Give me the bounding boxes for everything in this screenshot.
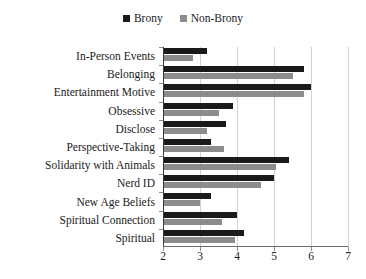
bar-non-brony <box>163 219 222 225</box>
bar-group <box>163 83 348 101</box>
category-label: Belonging <box>107 68 155 80</box>
bar-brony <box>163 66 304 72</box>
category-label: Entertainment Motive <box>54 86 155 98</box>
bar-brony <box>163 175 274 181</box>
legend-swatch-non-brony-icon <box>180 15 187 22</box>
bar-chart: Brony Non-Brony In-Person EventsBelongin… <box>0 0 366 279</box>
legend-entry-non-brony: Non-Brony <box>180 13 243 25</box>
bar-non-brony <box>163 146 224 152</box>
bar-group <box>163 138 348 156</box>
category-label: Spiritual Connection <box>59 214 155 226</box>
category-label: Nerd ID <box>117 177 155 189</box>
x-tick-label-3: 3 <box>197 250 203 262</box>
bar-non-brony <box>163 91 304 97</box>
bar-rows <box>163 47 348 247</box>
bar-brony <box>163 212 237 218</box>
bar-brony <box>163 230 244 236</box>
legend-entry-brony: Brony <box>123 13 163 25</box>
bar-non-brony <box>163 182 261 188</box>
gridline-7 <box>348 47 349 247</box>
category-label: Disclose <box>115 123 155 135</box>
bar-non-brony <box>163 164 276 170</box>
bar-brony <box>163 103 233 109</box>
bar-group <box>163 229 348 247</box>
bar-group <box>163 120 348 138</box>
x-tick-label-6: 6 <box>308 250 314 262</box>
bar-brony <box>163 157 289 163</box>
legend-swatch-brony-icon <box>123 15 130 22</box>
bar-group <box>163 102 348 120</box>
y-axis-category-labels: In-Person EventsBelongingEntertainment M… <box>0 47 160 247</box>
category-label: In-Person Events <box>76 50 155 62</box>
x-axis-line <box>163 246 348 247</box>
bar-brony <box>163 121 226 127</box>
bar-non-brony <box>163 55 193 61</box>
legend-label-non-brony: Non-Brony <box>191 13 243 25</box>
x-tick-label-5: 5 <box>271 250 277 262</box>
bar-group <box>163 174 348 192</box>
bar-non-brony <box>163 200 200 206</box>
plot-area <box>163 47 348 247</box>
bar-group <box>163 156 348 174</box>
chart-legend: Brony Non-Brony <box>0 13 366 25</box>
bar-group <box>163 65 348 83</box>
bar-non-brony <box>163 237 235 243</box>
category-label: Spiritual <box>115 232 155 244</box>
legend-label-brony: Brony <box>134 13 163 25</box>
x-tick-label-2: 2 <box>160 250 166 262</box>
category-label: New Age Beliefs <box>76 196 155 208</box>
bar-brony <box>163 84 311 90</box>
category-label: Solidarity with Animals <box>45 159 155 171</box>
category-label: Obsessive <box>108 105 155 117</box>
bar-brony <box>163 139 211 145</box>
bar-non-brony <box>163 110 219 116</box>
x-tick-label-7: 7 <box>345 250 351 262</box>
bar-group <box>163 211 348 229</box>
category-label: Perspective-Taking <box>66 141 155 153</box>
bar-brony <box>163 48 207 54</box>
bar-non-brony <box>163 128 207 134</box>
bar-group <box>163 192 348 210</box>
y-axis-line <box>163 47 164 247</box>
bar-group <box>163 47 348 65</box>
bar-brony <box>163 193 211 199</box>
bar-non-brony <box>163 73 293 79</box>
x-tick-label-4: 4 <box>234 250 240 262</box>
